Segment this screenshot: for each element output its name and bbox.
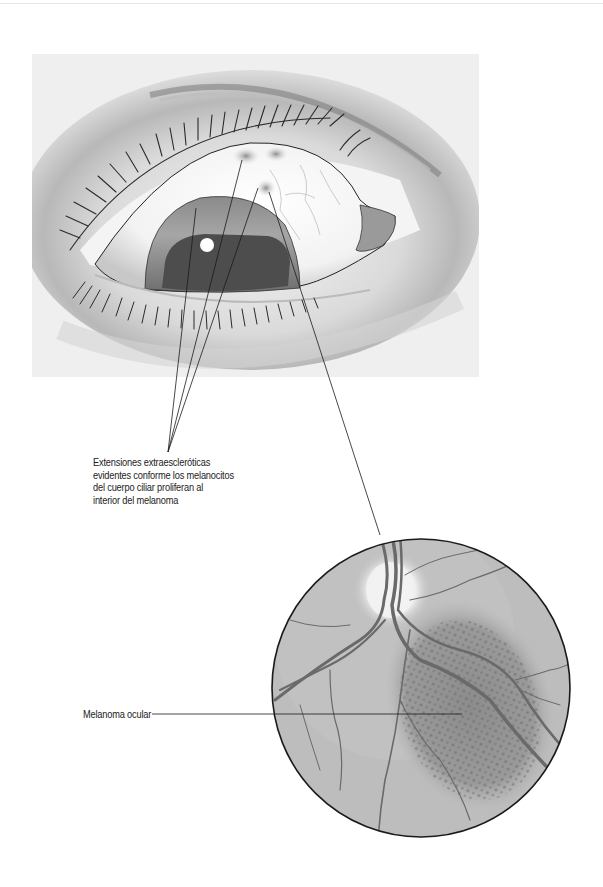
- extensions-label-line: del cuerpo ciliar proliferan al: [93, 481, 234, 494]
- extensions-label-line: interior del melanoma: [93, 494, 234, 507]
- extensions-label-line: Extensiones extraescleróticas: [93, 456, 234, 469]
- melanoma-label: Melanoma ocular: [83, 708, 151, 721]
- eye-panel: [20, 54, 480, 377]
- fundus-panel: [272, 520, 581, 840]
- extensions-label-line: evidentes conforme los melanocitos: [93, 469, 234, 482]
- extensions-label: Extensiones extraescleróticas evidentes …: [93, 456, 234, 506]
- medical-illustration: [0, 0, 603, 887]
